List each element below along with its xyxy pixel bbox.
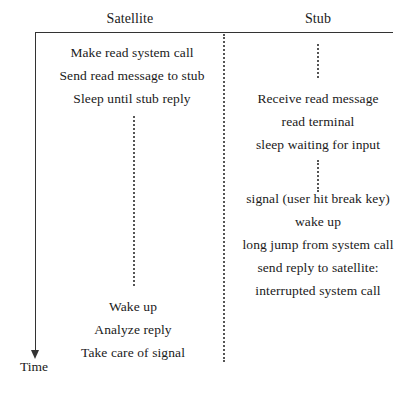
satellite-step: Wake up — [109, 299, 157, 315]
satellite-step: Take care of signal — [81, 345, 185, 361]
satellite-header: Satellite — [107, 11, 154, 27]
top-rule — [35, 32, 393, 33]
stub-step: long jump from system call — [242, 237, 393, 253]
stub-step: send reply to satellite: — [257, 260, 378, 276]
satellite-step: Make read system call — [70, 45, 193, 61]
stub-step: interrupted system call — [255, 283, 380, 299]
stub-step: wake up — [295, 214, 341, 230]
stub-step: signal (user hit break key) — [246, 191, 390, 207]
satellite-step: Sleep until stub reply — [73, 91, 190, 107]
stub-step: read terminal — [282, 114, 355, 130]
stub-step: Receive read message — [257, 91, 378, 107]
stub-wait-dots — [317, 160, 319, 192]
stub-header: Stub — [305, 11, 331, 27]
stub-idle-dots — [317, 44, 319, 78]
satellite-step: Analyze reply — [94, 322, 171, 338]
satellite-wait-dots — [133, 116, 135, 286]
time-axis — [35, 32, 36, 354]
time-arrow-icon — [31, 350, 39, 359]
time-label: Time — [20, 359, 48, 375]
satellite-step: Send read message to stub — [60, 68, 205, 84]
column-divider — [223, 34, 225, 362]
stub-step: sleep waiting for input — [256, 137, 380, 153]
